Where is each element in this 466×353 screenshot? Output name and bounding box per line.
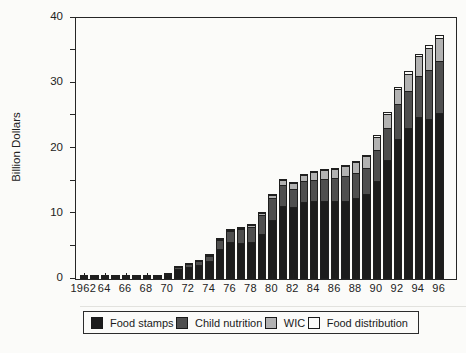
bar-segment-child-nutrition <box>289 189 297 209</box>
y-axis-label: 10 <box>33 206 63 218</box>
bar-segment-food-stamps <box>352 198 360 279</box>
bar <box>425 45 433 279</box>
legend-swatch <box>265 317 277 329</box>
bar-segment-child-nutrition <box>352 173 360 199</box>
bar-segment-food-stamps <box>90 277 98 279</box>
bar <box>394 87 402 279</box>
bar <box>174 266 182 279</box>
y-axis: 010203040 <box>0 17 75 278</box>
x-axis-label: 96 <box>432 282 445 294</box>
bar <box>132 275 140 279</box>
legend-item: Food stamps <box>91 317 174 329</box>
x-axis-labels: 19626466687072747678808284868890929496 <box>78 282 444 296</box>
bar-segment-food-stamps <box>415 117 423 279</box>
bar <box>352 161 360 279</box>
x-axis-label: 70 <box>160 282 173 294</box>
bar <box>226 229 234 279</box>
bar-segment-food-stamps <box>185 267 193 279</box>
x-axis-label: 66 <box>119 282 132 294</box>
bar-segment-food-stamps <box>143 277 151 279</box>
bar-segment-wic <box>394 89 402 106</box>
bar <box>341 165 349 279</box>
x-axis-label: 1962 <box>70 282 96 294</box>
bar-segment-wic <box>373 137 381 151</box>
x-axis-label: 76 <box>223 282 236 294</box>
bar <box>122 275 130 279</box>
bar-segment-child-nutrition <box>279 185 287 207</box>
bar-segment-wic <box>425 48 433 71</box>
bar-segment-wic <box>383 114 391 129</box>
bar-segment-food-stamps <box>237 243 245 279</box>
bar-segment-child-nutrition <box>425 70 433 120</box>
bar-segment-child-nutrition <box>362 168 370 195</box>
bar-segment-food-stamps <box>373 181 381 279</box>
bar-segment-food-stamps <box>331 201 339 279</box>
bar-segment-child-nutrition <box>383 128 391 161</box>
chart-figure: Billion Dollars 010203040 19626466687072… <box>0 0 466 353</box>
legend: Food stampsChild nutritionWICFood distri… <box>83 311 419 334</box>
bar-segment-child-nutrition <box>320 179 328 202</box>
bar <box>268 194 276 279</box>
bar-segment-food-stamps <box>362 194 370 279</box>
x-axis-label: 88 <box>349 282 362 294</box>
bar-segment-child-nutrition <box>373 150 381 183</box>
bar-segment-child-nutrition <box>268 198 276 220</box>
x-axis-label: 94 <box>411 282 424 294</box>
bar <box>195 260 203 279</box>
legend-swatch <box>91 317 103 329</box>
bar-segment-wic <box>404 74 412 93</box>
bar-segment-child-nutrition <box>258 215 266 235</box>
bar <box>111 275 119 279</box>
x-axis-label: 64 <box>98 282 111 294</box>
bar-segment-food-stamps <box>279 206 287 279</box>
bar-segment-food-stamps <box>205 261 213 279</box>
legend-item: Food distribution <box>308 317 408 329</box>
bar-segment-food-stamps <box>425 119 433 280</box>
y-axis-label: 0 <box>33 271 63 283</box>
bar-segment-child-nutrition <box>237 229 245 244</box>
x-axis-label: 72 <box>181 282 194 294</box>
bar <box>435 35 443 279</box>
legend-swatch <box>308 317 320 329</box>
bar-segment-food-stamps <box>435 113 443 279</box>
bar-segment-wic <box>415 56 423 77</box>
x-axis-label: 68 <box>140 282 153 294</box>
bar <box>258 212 266 279</box>
legend-label: WIC <box>284 317 305 329</box>
bar <box>143 275 151 279</box>
bar-segment-food-stamps <box>289 207 297 279</box>
legend-label: Food distribution <box>327 317 408 329</box>
legend-label: Child nutrition <box>195 317 262 329</box>
scan-artifact-line <box>80 306 466 307</box>
plot-area <box>75 17 457 280</box>
bar-segment-food-stamps <box>111 277 119 279</box>
bar <box>80 275 88 279</box>
bar <box>205 254 213 279</box>
bar <box>247 224 255 279</box>
bar <box>404 71 412 279</box>
bar <box>216 238 224 279</box>
bar-segment-child-nutrition <box>341 176 349 201</box>
bar <box>373 135 381 279</box>
legend-swatch <box>176 317 188 329</box>
bar <box>415 54 423 279</box>
bar <box>237 227 245 279</box>
bar-segment-child-nutrition <box>404 91 412 129</box>
bar-segment-food-stamps <box>122 277 130 279</box>
bar-segment-food-stamps <box>258 234 266 279</box>
bar-segment-food-stamps <box>216 249 224 279</box>
bars-container <box>79 18 445 279</box>
y-axis-label: 30 <box>33 75 63 87</box>
bar <box>90 275 98 279</box>
bar-segment-food-stamps <box>247 242 255 279</box>
bar-segment-child-nutrition <box>435 61 443 113</box>
y-axis-label: 40 <box>33 10 63 22</box>
bar <box>383 112 391 279</box>
bar-segment-food-stamps <box>80 277 88 279</box>
bar-segment-child-nutrition <box>415 76 423 118</box>
bar <box>185 263 193 279</box>
bar-segment-food-stamps <box>101 277 109 279</box>
bar-segment-food-stamps <box>310 201 318 279</box>
bar-segment-food-stamps <box>132 277 140 279</box>
legend-item: WIC <box>265 317 305 329</box>
